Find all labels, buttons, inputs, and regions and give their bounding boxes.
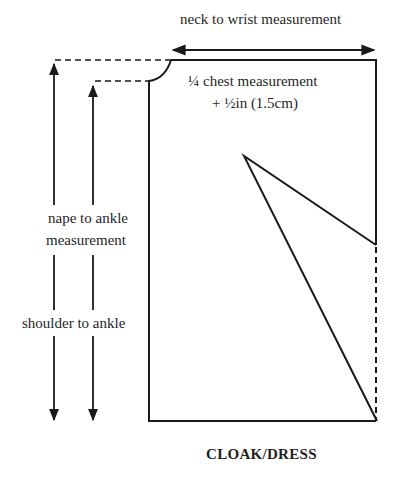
dart-lines (244, 156, 377, 421)
nape-to-ankle-label-line1: nape to ankle (48, 209, 128, 227)
diagram-title: CLOAK/DRESS (206, 446, 317, 463)
pattern-outline (149, 60, 376, 421)
chest-measurement-label-line1: ¼ chest measurement (188, 72, 318, 90)
neck-to-wrist-label: neck to wrist measurement (180, 10, 341, 28)
chest-measurement-label-line2: + ½in (1.5cm) (212, 94, 298, 112)
nape-to-ankle-label-line2: measurement (46, 231, 126, 249)
shoulder-to-ankle-label: shoulder to ankle (22, 314, 125, 332)
